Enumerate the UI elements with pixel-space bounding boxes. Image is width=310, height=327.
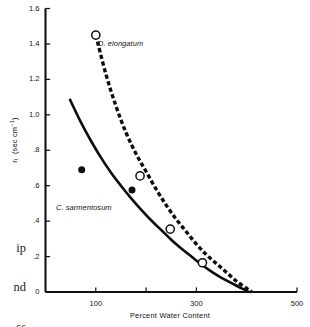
x-tick-label: 500 xyxy=(280,299,310,308)
axes xyxy=(46,9,298,293)
data-curves xyxy=(70,35,252,292)
data-point-open-circle xyxy=(92,31,100,39)
x-axis-title: Percent Water Content xyxy=(90,311,250,320)
x-tick-label: 100 xyxy=(79,299,113,308)
y-tick-label: .2 xyxy=(14,252,40,261)
series-label-c-sarmentosum: C. sarmentosum xyxy=(56,203,112,212)
y-axis-title-units-close: ) xyxy=(10,117,19,120)
y-axis-title-symbol: r xyxy=(10,160,19,163)
y-axis-title: rl (sec cm−1) xyxy=(9,100,19,180)
x-tick-label: 300 xyxy=(179,299,213,308)
y-axis-title-units: (sec cm xyxy=(10,127,19,154)
data-point-open-circle xyxy=(166,225,174,233)
y-tick-label: 1.2 xyxy=(14,74,40,83)
series-label-d-elongatum: D. elongatum xyxy=(98,39,143,48)
y-tick-label: 1.4 xyxy=(14,39,40,48)
y-tick-label: 0 xyxy=(14,287,40,296)
series-curve-d-elongatum xyxy=(96,35,252,292)
y-tick-label: 1.6 xyxy=(14,4,40,13)
y-axis-title-subscript: l xyxy=(13,159,19,160)
data-point-filled-circle xyxy=(78,166,85,173)
y-axis-title-superscript: −1 xyxy=(9,120,15,127)
data-point-filled-circle xyxy=(129,187,136,194)
data-point-open-circle xyxy=(198,259,206,267)
figure-panel: ip nd ss af on af s- 0.2.4.6.81.01.21.41… xyxy=(0,0,310,327)
y-tick-label: .6 xyxy=(14,181,40,190)
data-point-open-circle xyxy=(136,172,144,180)
plot-area xyxy=(0,0,310,327)
y-tick-label: .4 xyxy=(14,216,40,225)
